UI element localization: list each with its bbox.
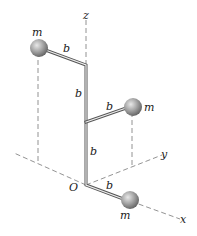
middle-arm-length-label: b [106, 100, 113, 113]
upper-mass-sphere [30, 39, 48, 57]
y-axis-label: y [160, 148, 168, 161]
rod-assembly [40, 48, 132, 200]
upper-arm-length-label: b [63, 42, 70, 55]
z-axis-label: z [82, 9, 89, 22]
lower-mass-sphere [121, 191, 139, 209]
x-axis-label: x [180, 213, 187, 226]
origin-label: O [69, 181, 78, 194]
lower-mass-label: m [120, 209, 130, 222]
middle-mass-sphere [124, 98, 142, 116]
lower-arm-length-label: b [106, 179, 113, 192]
middle-mass-label: m [144, 101, 154, 114]
lower-vertical-length-label: b [90, 145, 97, 158]
rigid-body-diagram: z y x O m m m b b b b b [0, 0, 197, 236]
upper-mass-label: m [32, 26, 42, 39]
y-axis [86, 155, 162, 185]
upper-vertical-length-label: b [75, 87, 82, 100]
